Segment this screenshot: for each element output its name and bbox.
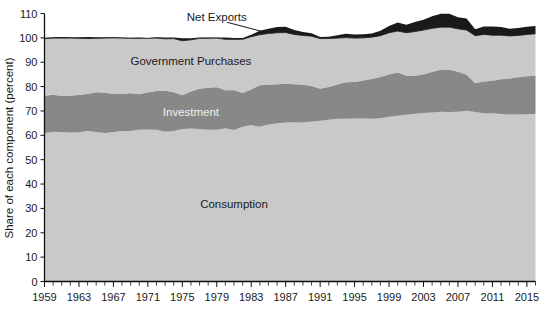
series-label-investment: Investment: [163, 106, 220, 118]
series-areas: [45, 14, 536, 282]
x-axis-ticks: 1959196319671971197519791983198719911995…: [32, 282, 539, 303]
y-tick-label: 100: [19, 32, 37, 44]
y-axis-title-group: Share of each component (percent): [3, 57, 15, 238]
x-tick-label: 1979: [205, 291, 229, 303]
x-tick-label: 2003: [411, 291, 435, 303]
y-tick-label: 40: [25, 178, 37, 190]
series-label-consumption: Consumption: [200, 198, 268, 210]
x-tick-label: 1967: [101, 291, 125, 303]
x-tick-label: 1999: [377, 291, 401, 303]
y-tick-label: 30: [25, 202, 37, 214]
x-tick-label: 1959: [32, 291, 56, 303]
y-tick-label: 50: [25, 154, 37, 166]
x-tick-label: 1987: [273, 291, 297, 303]
x-tick-label: 2011: [481, 291, 505, 303]
y-axis-title: Share of each component (percent): [3, 57, 15, 238]
x-tick-label: 1963: [67, 291, 91, 303]
y-tick-label: 90: [25, 56, 37, 68]
x-tick-label: 2015: [515, 291, 539, 303]
series-label-net-exports: Net Exports: [187, 11, 247, 23]
y-tick-label: 110: [20, 8, 38, 20]
y-tick-label: 60: [25, 129, 37, 141]
area-series-consumption: [45, 111, 536, 282]
y-tick-label: 80: [25, 81, 37, 93]
x-tick-label: 1971: [136, 291, 160, 303]
x-tick-label: 1975: [170, 291, 194, 303]
x-tick-label: 1983: [239, 291, 263, 303]
series-label-government-purchases: Government Purchases: [131, 55, 252, 67]
stacked-area-chart: 0102030405060708090100110 19591963196719…: [0, 0, 547, 316]
x-tick-label: 1995: [342, 291, 366, 303]
x-tick-label: 1991: [308, 291, 332, 303]
y-tick-label: 70: [25, 105, 37, 117]
y-tick-label: 20: [25, 227, 37, 239]
chart-canvas: 0102030405060708090100110 19591963196719…: [0, 0, 547, 316]
y-tick-label: 10: [25, 251, 37, 263]
y-tick-label: 0: [31, 276, 37, 288]
x-tick-label: 2007: [446, 291, 470, 303]
y-axis-ticks: 0102030405060708090100110: [19, 8, 44, 288]
